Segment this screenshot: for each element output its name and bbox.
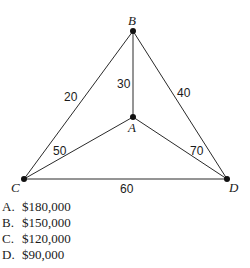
edge-weight-c-b: 20 <box>64 90 78 104</box>
choice-text: $150,000 <box>22 215 71 230</box>
edge-c-b <box>24 31 133 179</box>
edge-weight-a-b: 30 <box>117 77 131 91</box>
edge-a-d <box>133 117 227 179</box>
node-label-a: A <box>127 120 136 135</box>
edge-weight-c-d: 60 <box>120 182 134 196</box>
node-c <box>21 176 27 182</box>
choice-d: D.$90,000 <box>2 247 71 263</box>
choice-a: A.$180,000 <box>2 199 71 215</box>
edge-weight-a-d: 70 <box>190 144 204 158</box>
edge-b-d <box>133 31 227 179</box>
choice-letter: D. <box>2 247 22 263</box>
choice-letter: A. <box>2 199 22 215</box>
node-b <box>130 28 136 34</box>
edge-weight-b-d: 40 <box>177 86 191 100</box>
choice-letter: C. <box>2 231 22 247</box>
node-label-d: D <box>228 180 239 195</box>
choice-text: $90,000 <box>22 247 64 262</box>
node-label-b: B <box>128 13 136 28</box>
answer-choices: A.$180,000 B.$150,000 C.$120,000 D.$90,0… <box>2 199 71 263</box>
choice-text: $180,000 <box>22 199 71 214</box>
choice-letter: B. <box>2 215 22 231</box>
node-label-c: C <box>11 180 20 195</box>
edge-c-a <box>24 117 133 179</box>
edge-weight-c-a: 50 <box>53 144 67 158</box>
network-graph: B A C D 20 30 40 50 60 70 <box>0 0 250 200</box>
choice-c: C.$120,000 <box>2 231 71 247</box>
choice-b: B.$150,000 <box>2 215 71 231</box>
choice-text: $120,000 <box>22 231 71 246</box>
